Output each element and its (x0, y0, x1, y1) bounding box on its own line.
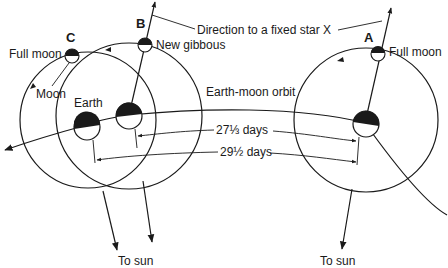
synodic-period-label: 29½ days (220, 145, 272, 159)
sidereal-arrow-right (273, 131, 356, 141)
new-gibbous-label: New gibbous (156, 38, 225, 52)
moon-label: Moon (36, 87, 66, 101)
earth-a (353, 111, 379, 137)
full-moon-label-c: Full moon (9, 47, 62, 61)
earth-c-tick (93, 140, 95, 163)
orbit-direction-arrow-a (337, 57, 344, 62)
to-sun-arrow-b (143, 181, 152, 242)
fixed-star-leader-right (338, 21, 382, 30)
full-moon-label-a: Full moon (389, 45, 442, 59)
label-b: B (136, 16, 145, 31)
earth-c (74, 111, 100, 140)
label-c: C (66, 30, 76, 45)
moon-b (138, 38, 152, 52)
diagram-canvas: C B A Full moon New gibbous Full moon Di… (0, 0, 448, 268)
earth-a-tick (357, 137, 359, 165)
to-sun-label-left: To sun (118, 254, 153, 268)
to-sun-label-right: To sun (320, 254, 355, 268)
fixed-star-leader (152, 15, 195, 29)
moon-leader (52, 63, 69, 86)
orbit-direction-arrow-b (105, 47, 111, 52)
earth-b-tick (135, 129, 137, 148)
synodic-arrow-right (270, 153, 356, 162)
label-a: A (364, 30, 374, 45)
earth-label: Earth (74, 96, 103, 110)
star-direction-line-a (365, 8, 391, 123)
moon-a (371, 46, 385, 61)
sidereal-period-label: 27⅓ days (216, 123, 268, 137)
to-sun-arrow-c (103, 191, 117, 250)
orbit-label: Earth-moon orbit (206, 85, 296, 99)
sidereal-arrow-left (138, 130, 214, 136)
earth-b (116, 102, 142, 129)
fixed-star-label: Direction to a fixed star X (197, 23, 331, 37)
synodic-arrow-left (97, 152, 218, 160)
moon-c (65, 49, 79, 63)
to-sun-arrow-a (342, 189, 352, 249)
